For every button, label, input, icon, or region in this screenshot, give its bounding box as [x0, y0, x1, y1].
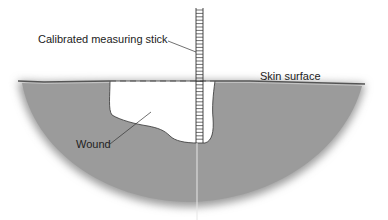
label-wound: Wound: [76, 139, 111, 150]
label-measuring-stick: Calibrated measuring stick: [38, 34, 168, 45]
label-skin-surface: Skin surface: [260, 71, 321, 82]
stick-leader-line: [168, 41, 196, 52]
skin-surface-left: [18, 81, 110, 82]
